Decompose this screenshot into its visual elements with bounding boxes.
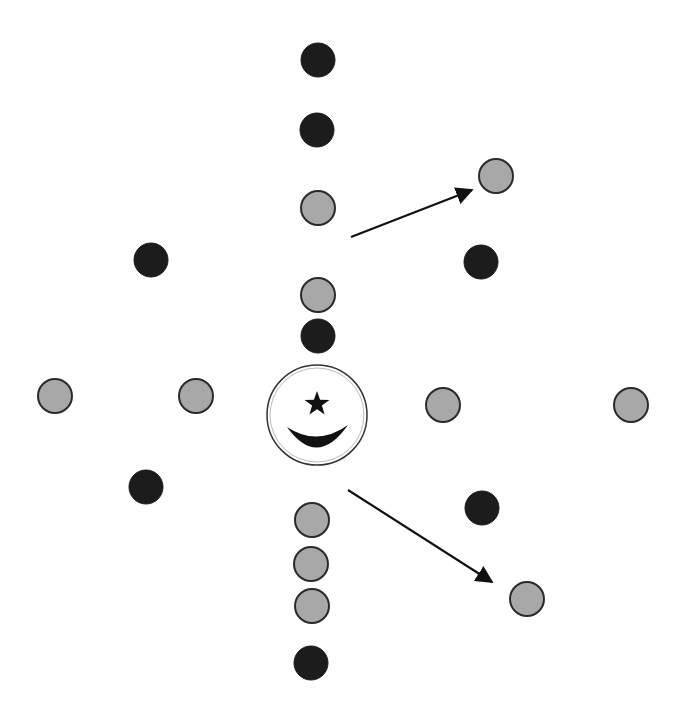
light-dot-d8	[179, 379, 213, 413]
arrow-a1	[351, 190, 472, 237]
light-dot-d18	[295, 589, 329, 623]
dark-dot-d9	[129, 470, 163, 504]
dark-dot-d19	[294, 646, 328, 680]
diagram-svg	[0, 0, 687, 727]
light-dot-d10	[479, 159, 513, 193]
dark-dot-d1	[301, 43, 335, 77]
star-crescent-emblem	[267, 365, 367, 465]
light-dot-d15	[510, 582, 544, 616]
light-dot-d13	[614, 388, 648, 422]
light-dot-d17	[294, 547, 328, 581]
dots-group	[38, 43, 648, 680]
dark-dot-d5	[301, 319, 335, 353]
light-dot-d3	[301, 191, 335, 225]
emblem-circle	[267, 365, 367, 465]
light-dot-d4	[301, 278, 335, 312]
dark-dot-d6	[134, 243, 168, 277]
light-dot-d12	[426, 388, 460, 422]
dark-dot-d2	[300, 113, 334, 147]
light-dot-d16	[295, 503, 329, 537]
diagram-canvas	[0, 0, 687, 727]
dark-dot-d11	[464, 245, 498, 279]
light-dot-d7	[38, 379, 72, 413]
dark-dot-d14	[465, 491, 499, 525]
